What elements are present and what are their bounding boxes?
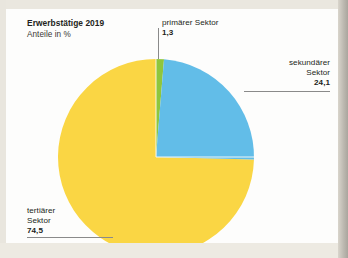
callout-primaerer-sektor-label: primärer Sektor: [162, 18, 219, 28]
headline-main: Erwerbstätige 2019: [27, 18, 104, 29]
page-right-edge: [338, 0, 348, 258]
scanned-page: Erwerbstätige 2019 Anteile in % primärer…: [0, 0, 348, 258]
callout-tertiaerer-sektor-value: 74,5: [27, 226, 55, 236]
callout-tertiaerer-sektor-label-line1: tertiärer: [27, 206, 55, 216]
leader-line-primaerer-sektor: [158, 28, 159, 59]
page-bottom-margin: [0, 243, 348, 258]
callout-sekundaerer-sektor: sekundärer Sektor 24,1: [212, 58, 330, 89]
callout-sekundaerer-sektor-label-line1: sekundärer: [212, 58, 330, 68]
callout-sekundaerer-sektor-label-line2: Sektor: [212, 68, 330, 78]
figure-card: Erwerbstätige 2019 Anteile in % primärer…: [6, 9, 338, 243]
callout-tertiaerer-sektor: tertiärer Sektor 74,5: [27, 206, 55, 237]
headline-sub: Anteile in %: [27, 29, 104, 40]
callout-primaerer-sektor: primärer Sektor 1,3: [162, 18, 219, 38]
callout-sekundaerer-sektor-value: 24,1: [212, 78, 330, 88]
page-top-margin: [0, 0, 348, 9]
callout-tertiaerer-sektor-label-line2: Sektor: [27, 216, 55, 226]
leader-line-tertiaerer-sektor: [27, 237, 113, 238]
leader-line-sekundaerer-sektor: [244, 91, 330, 92]
page-title: Erwerbstätige 2019 Anteile in %: [27, 18, 104, 40]
callout-primaerer-sektor-value: 1,3: [162, 28, 219, 38]
